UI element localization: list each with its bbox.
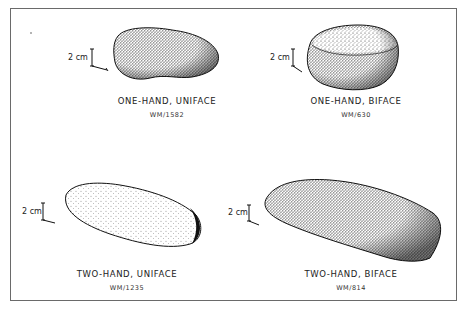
panel-title-one-hand-biface: ONE-HAND, BIFACE [310, 96, 401, 106]
panel-title-one-hand-uniface: ONE-HAND, UNIFACE [118, 96, 216, 106]
scale-label-1: 2 cm [68, 53, 88, 62]
catalog-number-1: WM/1582 [150, 111, 184, 119]
stone-one-hand-biface [307, 25, 398, 90]
scale-bar-4 [247, 205, 259, 225]
stray-dot [30, 32, 32, 34]
stone-one-hand-uniface [114, 28, 219, 79]
stone-two-hand-uniface [66, 183, 201, 246]
stone-two-hand-biface [265, 180, 441, 262]
catalog-number-3: WM/1235 [110, 284, 144, 292]
scale-bar-2 [291, 49, 302, 72]
scale-label-2: 2 cm [270, 53, 290, 62]
scale-bar-3 [41, 203, 55, 223]
panel-title-two-hand-biface: TWO-HAND, BIFACE [304, 269, 397, 279]
panel-title-two-hand-uniface: TWO-HAND, UNIFACE [77, 269, 177, 279]
stone-illustrations [0, 0, 466, 309]
catalog-number-4: WM/814 [336, 284, 366, 292]
scale-label-3: 2 cm [22, 207, 42, 216]
catalog-number-2: WM/630 [341, 111, 371, 119]
scale-bar-1 [90, 49, 108, 71]
scale-label-4: 2 cm [228, 208, 248, 217]
